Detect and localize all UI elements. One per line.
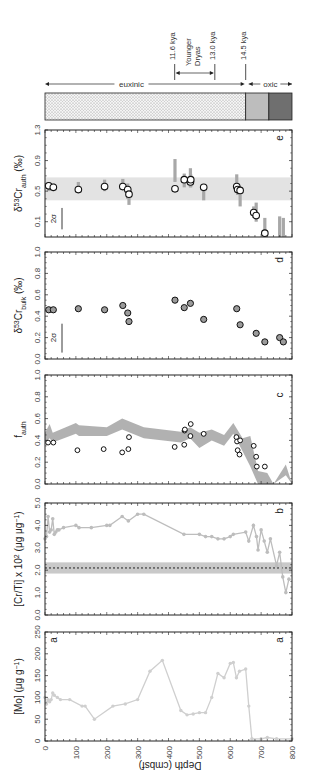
value-tick-label: 0.6 xyxy=(33,412,42,424)
value-tick-label: 150 xyxy=(33,668,42,682)
data-point xyxy=(161,659,164,662)
data-point xyxy=(108,524,112,528)
age-marker-label: 11.6 kya xyxy=(168,31,177,60)
value-tick-label: 2.0 xyxy=(33,564,42,576)
data-point xyxy=(235,676,238,679)
data-point xyxy=(62,526,66,530)
redox-segment-oxic xyxy=(269,93,292,120)
data-point xyxy=(182,442,187,447)
data-point xyxy=(120,515,124,519)
panel-label: a xyxy=(48,637,59,643)
data-point xyxy=(198,533,202,537)
value-tick-label: 0.4 xyxy=(33,310,42,322)
oxic-label: oxic xyxy=(263,80,277,89)
depth-tick-label: 100 xyxy=(72,745,81,759)
data-point xyxy=(253,330,259,336)
younger-dryas-label: Younger xyxy=(184,38,193,66)
panel-e-d53cr-auth: 0.10.50.91.32σδ53Crauth (‰)e xyxy=(13,124,293,237)
data-point xyxy=(111,704,114,707)
data-point xyxy=(201,316,207,322)
value-tick-label: 0.2 xyxy=(33,456,42,468)
data-point xyxy=(46,515,50,519)
y-axis-label: fauth xyxy=(13,421,27,438)
data-point xyxy=(148,670,151,673)
data-point xyxy=(127,519,131,523)
data-point xyxy=(247,539,251,543)
panel-label: c xyxy=(274,393,285,398)
value-tick-label: 3.0 xyxy=(33,542,42,554)
data-point xyxy=(120,302,126,308)
data-point xyxy=(120,450,125,455)
two-sigma-label: 2σ xyxy=(49,214,58,223)
data-point xyxy=(254,454,259,459)
value-tick-label: 4.0 xyxy=(33,519,42,531)
value-tick-label: 0.2 xyxy=(33,331,42,343)
multi-panel-chart: euxinicoxic11.6 kya13.0 kya14.5 kyaYoung… xyxy=(0,0,310,776)
panel-frame xyxy=(45,632,292,741)
data-point xyxy=(244,667,247,670)
data-point xyxy=(127,435,132,440)
panel-b-cr-ti: 0.01.02.03.04.05.0[Cr/Ti] x 102 (μg μg−1… xyxy=(13,497,293,621)
data-point xyxy=(46,440,51,445)
data-point xyxy=(266,550,270,554)
data-point xyxy=(83,704,86,707)
age-marker-label: 13.0 kya xyxy=(208,31,217,60)
value-tick-label: 250 xyxy=(33,625,42,639)
y-axis-label: [Cr/Ti] x 102 (μg μg−1) xyxy=(13,511,25,606)
data-point xyxy=(198,711,201,714)
data-point xyxy=(51,517,55,521)
data-point xyxy=(105,524,109,528)
data-point xyxy=(228,535,232,539)
data-point xyxy=(251,443,256,448)
value-tick-label: 0.1 xyxy=(33,216,42,228)
data-point xyxy=(90,526,94,530)
data-point xyxy=(126,191,133,198)
panel-label: e xyxy=(274,135,285,141)
value-tick-label: 1.0 xyxy=(33,246,42,258)
depth-tick-label: 400 xyxy=(165,745,174,759)
data-point xyxy=(216,672,219,675)
data-point xyxy=(232,661,235,664)
data-point xyxy=(187,176,194,183)
data-point xyxy=(185,713,188,716)
data-point xyxy=(253,212,260,219)
data-point xyxy=(222,676,225,679)
data-point xyxy=(204,711,207,714)
data-point xyxy=(124,702,127,705)
data-point xyxy=(262,464,267,469)
arrow-head-right-icon xyxy=(288,82,292,86)
panel-a-mo: 050100150200250[Mo] (μg g−1)aa0100200300… xyxy=(13,625,298,771)
data-point xyxy=(187,300,193,306)
data-point xyxy=(254,464,259,469)
data-point xyxy=(201,431,206,436)
data-point xyxy=(172,445,177,450)
data-point xyxy=(238,670,241,673)
data-point xyxy=(250,737,253,740)
data-point xyxy=(262,539,266,543)
data-point xyxy=(188,434,193,439)
data-point xyxy=(259,528,263,532)
data-point xyxy=(262,339,268,345)
panel-d-d53cr-bulk: 0.00.20.40.60.81.02σδ53Crbulk (‰)d xyxy=(13,246,293,365)
data-point xyxy=(255,535,259,539)
data-point xyxy=(256,548,260,552)
data-point xyxy=(266,736,269,739)
data-point xyxy=(126,447,131,452)
data-point xyxy=(56,696,59,699)
data-point xyxy=(53,694,56,697)
depth-tick-label: 800 xyxy=(288,745,297,759)
data-point xyxy=(57,528,61,532)
depth-axis-title: Depth (cmbsf) xyxy=(139,760,202,771)
panel-frame xyxy=(45,252,292,359)
depth-tick-label: 500 xyxy=(195,745,204,759)
data-point xyxy=(284,591,288,595)
data-point xyxy=(182,427,187,432)
data-point xyxy=(75,186,82,193)
data-point xyxy=(136,698,139,701)
age-marker-label: 14.5 kya xyxy=(239,31,248,60)
value-tick-label: 50 xyxy=(33,714,42,723)
data-point xyxy=(222,537,226,541)
data-point xyxy=(68,698,71,701)
data-point xyxy=(136,512,140,516)
data-point xyxy=(101,447,106,452)
